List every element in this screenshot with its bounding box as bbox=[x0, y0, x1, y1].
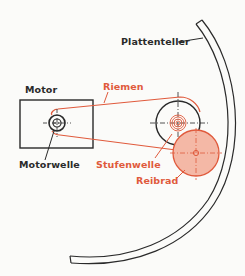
riemen-label: Riemen bbox=[103, 82, 144, 92]
stufenwelle-leader bbox=[155, 134, 172, 158]
reibrad-label: Reibrad bbox=[136, 176, 178, 186]
drive-diagram: Plattenteller Motor Riemen Motorwelle St… bbox=[0, 0, 245, 276]
plattenteller-label: Plattenteller bbox=[121, 37, 190, 47]
motorwelle-leader bbox=[45, 131, 54, 160]
riemen-leader bbox=[104, 92, 108, 103]
motor-label: Motor bbox=[25, 85, 57, 95]
stufenwelle-label: Stufenwelle bbox=[96, 160, 161, 170]
motorwelle-shaft bbox=[43, 109, 71, 137]
motorwelle-label: Motorwelle bbox=[19, 160, 80, 170]
